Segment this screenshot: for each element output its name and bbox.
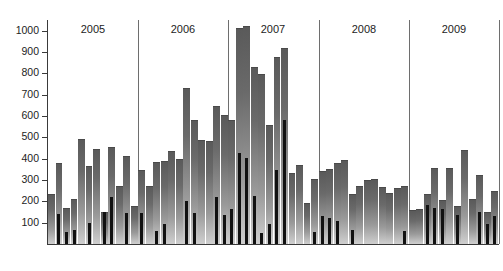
- bar-total: [296, 165, 303, 244]
- bar-total: [356, 186, 363, 244]
- bar-subset: [275, 170, 278, 244]
- bar-total: [93, 149, 100, 244]
- bar-total: [379, 187, 386, 244]
- y-axis-tick-label: 100: [0, 216, 39, 228]
- y-axis-tick-label: 400: [0, 152, 39, 164]
- y-axis-tick: [42, 223, 47, 224]
- bar-subset: [426, 205, 429, 244]
- bar-subset: [253, 196, 256, 244]
- bar-total: [146, 186, 153, 244]
- bar-total: [416, 209, 423, 244]
- bar-subset: [223, 215, 226, 244]
- bar-subset: [336, 221, 339, 244]
- bar-total: [289, 173, 296, 244]
- bar-total: [176, 159, 183, 244]
- bar-total: [198, 140, 205, 244]
- y-axis-tick-label: 1000: [0, 24, 39, 36]
- bar-subset: [185, 201, 188, 244]
- bar-total: [371, 179, 378, 244]
- y-axis-tick-label: 900: [0, 45, 39, 57]
- bar-total: [116, 186, 123, 244]
- bar-subset: [193, 213, 196, 244]
- bar-total: [78, 139, 85, 244]
- bar-subset: [57, 214, 60, 244]
- bar-subset: [140, 213, 143, 244]
- bar-subset: [433, 208, 436, 244]
- bar-subset: [351, 230, 354, 244]
- y-axis-tick: [42, 201, 47, 202]
- y-axis-tick: [42, 180, 47, 181]
- bar-total: [469, 199, 476, 244]
- bar-chart: 1002003004005006007008009001000 20052006…: [0, 0, 503, 271]
- bar-subset: [478, 212, 481, 244]
- bar-total: [409, 210, 416, 244]
- bar-subset: [283, 120, 286, 244]
- bar-subset: [155, 231, 158, 244]
- bar-subset: [313, 232, 316, 244]
- bar-subset: [245, 158, 248, 244]
- bar-subset: [110, 197, 113, 244]
- y-axis-tick: [42, 73, 47, 74]
- bar-total: [304, 203, 311, 244]
- bar-total: [168, 151, 175, 244]
- y-axis-tick: [42, 116, 47, 117]
- y-axis-tick-label: 500: [0, 130, 39, 142]
- bar-subset: [215, 197, 218, 244]
- bar-subset: [456, 215, 459, 244]
- y-axis-tick: [42, 52, 47, 53]
- bar-total: [206, 141, 213, 244]
- y-axis-tick-label: 200: [0, 194, 39, 206]
- bar-subset: [73, 230, 76, 244]
- bar-total: [258, 74, 265, 244]
- bar-subset: [486, 224, 489, 244]
- x-axis-baseline: [47, 244, 499, 245]
- y-axis-tick: [42, 95, 47, 96]
- bar-total: [394, 188, 401, 244]
- y-axis-tick-label: 700: [0, 88, 39, 100]
- bar-total: [48, 194, 55, 244]
- bar-subset: [268, 224, 271, 244]
- bar-total: [461, 150, 468, 245]
- bar-subset: [65, 232, 68, 244]
- bar-subset: [230, 209, 233, 244]
- footer-caption: [48, 256, 499, 270]
- plot-area: [48, 20, 499, 244]
- bar-subset: [493, 216, 496, 244]
- bar-total: [446, 168, 453, 244]
- y-axis-tick: [42, 137, 47, 138]
- bar-subset: [441, 209, 444, 244]
- bar-subset: [328, 218, 331, 244]
- bar-subset: [260, 233, 263, 244]
- bar-total: [341, 160, 348, 244]
- bar-subset: [103, 212, 106, 244]
- bar-total: [131, 206, 138, 244]
- y-axis-tick-label: 300: [0, 173, 39, 185]
- bar-subset: [88, 223, 91, 244]
- bar-total: [364, 180, 371, 244]
- bar-total: [386, 193, 393, 244]
- y-axis-tick: [42, 31, 47, 32]
- y-axis-tick: [42, 159, 47, 160]
- y-axis-tick-label: 600: [0, 109, 39, 121]
- bar-subset: [321, 216, 324, 244]
- bar-subset: [238, 153, 241, 244]
- y-axis-tick-label: 800: [0, 66, 39, 78]
- year-separator-line: [499, 20, 500, 244]
- bar-subset: [163, 224, 166, 244]
- bar-subset: [403, 231, 406, 244]
- bar-subset: [125, 213, 128, 244]
